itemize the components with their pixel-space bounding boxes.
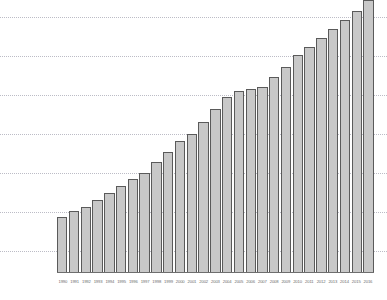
plot-area [0, 0, 387, 273]
bar [163, 152, 173, 273]
bar [81, 207, 91, 273]
bar [210, 109, 220, 273]
x-axis-labels: 1990199119921993199419951996199719981999… [57, 279, 374, 291]
x-tick-label: 1997 [139, 279, 151, 285]
x-tick-label: 2016 [362, 279, 374, 285]
x-tick-label: 1990 [57, 279, 69, 285]
x-tick-label: 1999 [163, 279, 175, 285]
x-tick-label: 2003 [210, 279, 222, 285]
bars-layer [57, 0, 374, 273]
bar [175, 141, 185, 273]
x-tick-label: 1991 [69, 279, 81, 285]
x-tick-label: 2001 [186, 279, 198, 285]
x-tick-label: 2015 [350, 279, 362, 285]
x-tick-label: 2010 [292, 279, 304, 285]
bar [269, 77, 279, 273]
x-tick-label: 1992 [80, 279, 92, 285]
bar [328, 29, 338, 273]
x-tick-label: 1998 [151, 279, 163, 285]
x-tick-label: 2004 [221, 279, 233, 285]
bar [234, 91, 244, 273]
bar [316, 38, 326, 273]
x-tick-label: 2006 [245, 279, 257, 285]
bar [340, 20, 350, 273]
x-tick-label: 2009 [280, 279, 292, 285]
x-tick-label: 2013 [327, 279, 339, 285]
x-tick-label: 1996 [127, 279, 139, 285]
bar [363, 0, 373, 273]
x-tick-label: 2002 [198, 279, 210, 285]
x-tick-label: 1995 [116, 279, 128, 285]
bar [92, 200, 102, 273]
x-axis-line [57, 272, 374, 273]
bar [222, 97, 232, 273]
bar [151, 162, 161, 273]
x-tick-label: 2007 [256, 279, 268, 285]
bar [246, 89, 256, 273]
bar [69, 211, 79, 273]
x-tick-label: 1994 [104, 279, 116, 285]
x-tick-label: 2008 [268, 279, 280, 285]
x-tick-label: 2014 [339, 279, 351, 285]
x-tick-label: 2012 [315, 279, 327, 285]
bar [304, 47, 314, 273]
bar [139, 173, 149, 273]
x-tick-label: 2005 [233, 279, 245, 285]
bar [128, 179, 138, 273]
x-tick-label: 1993 [92, 279, 104, 285]
bar-chart: 1990199119921993199419951996199719981999… [0, 0, 387, 300]
bar [116, 186, 126, 273]
bar [281, 67, 291, 273]
bar [198, 122, 208, 273]
bar [187, 134, 197, 273]
bar [104, 193, 114, 273]
x-tick-label: 2000 [174, 279, 186, 285]
bar [257, 87, 267, 273]
bar [57, 217, 67, 273]
x-tick-label: 2011 [303, 279, 315, 285]
bar [352, 11, 362, 273]
bar [293, 55, 303, 273]
